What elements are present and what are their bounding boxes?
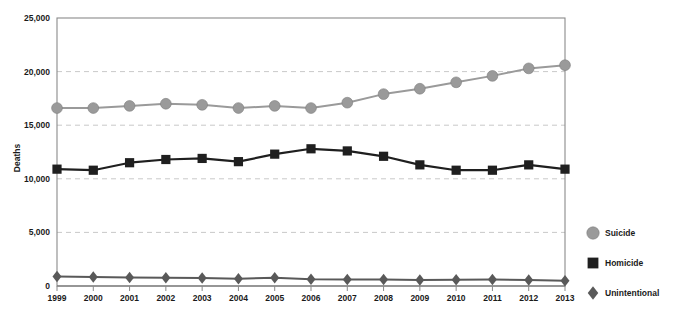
line-chart: 05,00010,00015,00020,00025,000 199920002… [0,0,677,318]
legend-label: Homicide [605,258,644,268]
plot-frame [57,18,565,291]
data-point-marker [234,157,243,166]
data-point-marker [524,274,533,286]
y-tick-label: 5,000 [29,227,51,237]
data-point-marker [160,98,171,109]
x-tick-label: 1999 [48,293,67,303]
data-point-marker [233,103,244,114]
series-suicide [52,60,571,114]
data-point-marker [524,160,533,169]
data-point-marker [378,89,389,100]
series-unintentional [53,271,570,287]
data-point-marker [270,272,279,284]
legend-item-suicide[interactable]: Suicide [587,227,636,239]
data-point-marker [161,272,170,284]
series-homicide [52,144,569,175]
data-point-marker [52,165,61,174]
data-point-marker [161,155,170,164]
data-point-marker [414,83,425,94]
data-point-marker [451,77,462,88]
x-tick-label: 2006 [302,293,321,303]
x-tick-label: 2010 [447,293,466,303]
data-point-marker [588,286,599,300]
x-tick-label: 2005 [265,293,284,303]
legend-label: Unintentional [605,288,659,298]
data-point-marker [379,274,388,286]
y-tick-label: 10,000 [24,174,50,184]
data-point-marker [588,258,599,269]
y-axis-tick-labels: 05,00010,00015,00020,00025,000 [24,13,50,291]
x-tick-label: 2000 [84,293,103,303]
data-point-marker [415,274,424,286]
data-point-marker [379,152,388,161]
legend-label: Suicide [605,228,636,238]
data-point-marker [269,101,280,112]
data-point-marker [52,103,63,114]
data-point-marker [234,273,243,285]
data-point-marker [560,165,569,174]
data-point-marker [306,144,315,153]
data-point-marker [124,101,135,112]
x-tick-label: 2012 [519,293,538,303]
x-tick-label: 2007 [338,293,357,303]
data-point-marker [487,70,498,81]
data-point-marker [306,103,317,114]
data-point-marker [561,275,570,287]
y-tick-label: 0 [45,281,50,291]
x-tick-label: 2013 [556,293,575,303]
data-point-marker [198,272,207,284]
data-point-marker [560,60,571,71]
data-point-marker [88,103,99,114]
chart-legend: SuicideHomicideUnintentional [587,227,660,300]
data-point-marker [125,272,134,284]
legend-item-unintentional[interactable]: Unintentional [588,286,660,300]
data-point-marker [452,166,461,175]
legend-item-homicide[interactable]: Homicide [588,258,644,269]
x-tick-label: 2011 [483,293,502,303]
data-point-marker [452,274,461,286]
chart-container: 05,00010,00015,00020,00025,000 199920002… [0,0,677,318]
data-point-marker [197,99,208,110]
series-layer [52,60,571,287]
data-point-marker [587,227,599,239]
data-point-marker [342,97,353,108]
x-tick-label: 2002 [156,293,175,303]
data-point-marker [523,63,534,74]
data-point-marker [125,158,134,167]
x-tick-label: 2001 [120,293,139,303]
x-tick-label: 2009 [410,293,429,303]
data-point-marker [488,166,497,175]
data-point-marker [307,273,316,285]
data-point-marker [488,274,497,286]
y-axis-title: Deaths [12,144,22,173]
y-tick-label: 15,000 [24,120,50,130]
y-tick-label: 20,000 [24,67,50,77]
y-tick-label: 25,000 [24,13,50,23]
data-point-marker [89,166,98,175]
x-tick-label: 2004 [229,293,248,303]
data-point-marker [270,150,279,159]
data-point-marker [198,154,207,163]
data-point-marker [343,274,352,286]
x-tick-label: 2003 [193,293,212,303]
data-point-marker [343,146,352,155]
data-point-marker [415,160,424,169]
data-point-marker [53,271,62,283]
x-tick-label: 2008 [374,293,393,303]
data-point-marker [89,271,98,283]
x-axis-tick-labels: 1999200020012002200320042005200620072008… [48,293,575,303]
